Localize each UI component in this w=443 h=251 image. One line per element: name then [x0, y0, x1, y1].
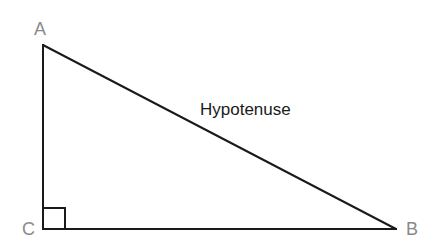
vertex-label-a: A — [34, 20, 46, 38]
triangle-diagram — [0, 0, 443, 251]
vertex-label-b: B — [406, 220, 418, 238]
hypotenuse-ab — [43, 45, 396, 229]
hypotenuse-label: Hypotenuse — [200, 101, 291, 118]
right-angle-marker — [43, 208, 65, 229]
vertex-label-c: C — [22, 220, 35, 238]
